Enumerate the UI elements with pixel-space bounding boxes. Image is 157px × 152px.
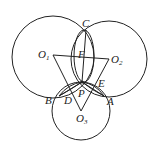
point-p-dot: [80, 80, 83, 83]
label-f: F: [77, 48, 85, 60]
diagram-canvas: C F O1 O2 E P D B A O3: [0, 0, 157, 152]
label-d: D: [63, 94, 72, 106]
label-a: A: [106, 95, 114, 107]
label-e: E: [97, 77, 105, 89]
label-p: P: [77, 87, 85, 99]
label-c: C: [82, 17, 90, 29]
label-o1: O1: [38, 48, 49, 62]
label-o2: O2: [111, 53, 123, 67]
label-o3: O3: [76, 112, 88, 126]
geometry-figure: C F O1 O2 E P D B A O3: [0, 0, 157, 152]
label-b: B: [45, 94, 52, 106]
